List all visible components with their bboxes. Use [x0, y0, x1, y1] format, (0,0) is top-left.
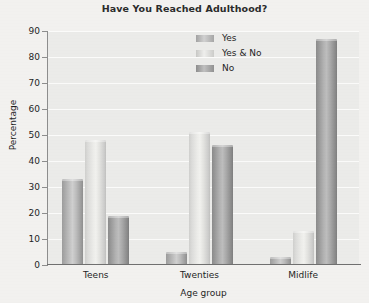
x-tick-label: Teens: [83, 270, 108, 280]
y-tick-mark: [42, 161, 48, 162]
y-tick-mark: [42, 135, 48, 136]
chart-figure: Have You Reached Adulthood? Percentage 0…: [0, 0, 369, 303]
y-tick-label: 80: [0, 52, 40, 62]
y-tick-mark: [42, 239, 48, 240]
gridline: [48, 83, 359, 84]
bar-highlight: [316, 39, 337, 41]
gridline: [48, 109, 359, 110]
bar: [212, 145, 233, 265]
x-axis-spine: [47, 264, 361, 265]
x-tick-label: Twenties: [180, 270, 219, 280]
y-tick-mark: [42, 83, 48, 84]
legend-swatch: [196, 50, 214, 57]
bar: [85, 140, 106, 265]
y-tick-mark: [42, 187, 48, 188]
y-tick-mark: [42, 31, 48, 32]
y-tick-label: 40: [0, 156, 40, 166]
bar-highlight: [212, 145, 233, 147]
bar-highlight: [62, 179, 83, 181]
bar-highlight: [189, 132, 210, 134]
legend-label: Yes: [222, 33, 237, 43]
bar: [62, 179, 83, 265]
bar: [293, 231, 314, 265]
y-tick-mark: [42, 109, 48, 110]
bar: [189, 132, 210, 265]
bar-highlight: [293, 231, 314, 233]
y-tick-label: 70: [0, 78, 40, 88]
legend-label: Yes & No: [222, 48, 262, 58]
y-tick-mark: [42, 265, 48, 266]
chart-legend: YesYes & NoNo: [196, 31, 262, 76]
chart-title: Have You Reached Adulthood?: [0, 3, 369, 14]
y-tick-label: 20: [0, 208, 40, 218]
legend-swatch: [196, 65, 214, 72]
legend-label: No: [222, 63, 234, 73]
bar-highlight: [108, 216, 129, 218]
y-tick-mark: [42, 57, 48, 58]
legend-swatch: [196, 35, 214, 42]
bar-highlight: [166, 252, 187, 254]
y-axis-spine: [47, 31, 48, 265]
bar-highlight: [85, 140, 106, 142]
y-tick-label: 90: [0, 26, 40, 36]
y-tick-label: 30: [0, 182, 40, 192]
legend-item: Yes & No: [196, 46, 262, 60]
y-axis-title: Percentage: [8, 85, 18, 165]
y-tick-label: 50: [0, 130, 40, 140]
y-tick-label: 0: [0, 260, 40, 270]
legend-item: Yes: [196, 31, 262, 45]
x-tick-label: Midlife: [288, 270, 318, 280]
y-tick-label: 10: [0, 234, 40, 244]
bar: [108, 216, 129, 265]
bar: [316, 39, 337, 265]
y-tick-mark: [42, 213, 48, 214]
x-axis-title: Age group: [48, 288, 359, 298]
y-tick-label: 60: [0, 104, 40, 114]
legend-item: No: [196, 61, 262, 75]
bar-highlight: [270, 257, 291, 259]
